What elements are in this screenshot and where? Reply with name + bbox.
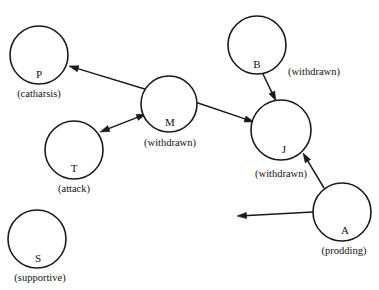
node-j-letter: J	[282, 143, 287, 155]
node-a-role-label: (prodding)	[322, 245, 367, 257]
node-m-letter: M	[165, 116, 175, 128]
node-s[interactable]: S(supportive)	[8, 210, 66, 284]
node-p-letter: P	[36, 68, 42, 80]
edge-m-to-j-line	[195, 102, 248, 120]
node-p[interactable]: P(catharsis)	[10, 26, 68, 100]
edge-t-to-m	[100, 114, 146, 132]
edge-a-outward-line	[243, 212, 313, 216]
nodes-layer: P(catharsis)M(withdrawn)T(attack)B(withd…	[8, 16, 371, 284]
edge-a-outward-arrowhead-end	[237, 212, 247, 218]
node-t[interactable]: T(attack)	[45, 121, 103, 195]
node-a-letter: A	[341, 224, 349, 236]
edge-a-to-j-arrowhead-end	[303, 153, 311, 163]
edge-m-to-j	[195, 102, 254, 122]
node-t-role-label: (attack)	[58, 183, 91, 195]
edge-b-to-j-arrowhead-end	[269, 91, 276, 101]
node-b[interactable]: B(withdrawn)	[228, 16, 340, 78]
edge-a-to-j-line	[306, 159, 324, 188]
edge-b-to-j-line	[262, 72, 273, 95]
node-m[interactable]: M(withdrawn)	[141, 76, 197, 149]
node-s-letter: S	[35, 252, 41, 264]
edge-t-to-m-arrowhead-start	[100, 126, 110, 132]
edge-a-outward	[237, 212, 313, 219]
node-t-letter: T	[71, 162, 78, 174]
node-m-role-label: (withdrawn)	[144, 137, 196, 149]
node-j[interactable]: J(withdrawn)	[251, 100, 311, 180]
edge-m-to-p	[69, 66, 148, 90]
edge-t-to-m-line	[106, 116, 140, 129]
node-j-role-label: (withdrawn)	[255, 168, 307, 180]
edge-b-to-j	[262, 72, 276, 101]
node-b-letter: B	[253, 58, 260, 70]
edge-m-to-p-arrowhead-end	[69, 66, 79, 72]
diagram-canvas: P(catharsis)M(withdrawn)T(attack)B(withd…	[0, 0, 379, 290]
diagram-svg: P(catharsis)M(withdrawn)T(attack)B(withd…	[0, 0, 379, 290]
node-b-role-label: (withdrawn)	[288, 66, 340, 78]
node-s-role-label: (supportive)	[14, 272, 66, 284]
edge-m-to-p-line	[75, 68, 148, 90]
node-p-role-label: (catharsis)	[17, 88, 61, 100]
node-a[interactable]: A(prodding)	[313, 183, 371, 257]
